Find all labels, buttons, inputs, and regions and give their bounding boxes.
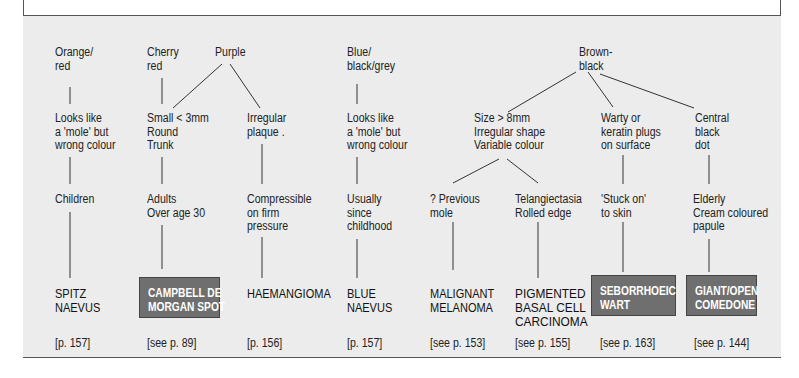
clue-elderly: Elderly Cream coloured papule	[693, 193, 768, 234]
header-blue-black-grey: Blue/ black/grey	[347, 46, 395, 73]
diagnosis-seborrhoeic-wart: SEBORRHOEIC WART	[600, 285, 676, 312]
diagnosis-giant-open-comedone: GIANT/OPEN COMEDONE	[695, 285, 758, 312]
clue-usually: Usually since childhood	[347, 193, 392, 234]
header-purple: Purple	[215, 46, 246, 60]
diagnosis-seborrhoeic-wart-box: SEBORRHOEIC WART	[591, 275, 676, 316]
page-ref-spitz: [p. 157]	[55, 337, 90, 351]
header-cherry-red: Cherry red	[147, 46, 179, 73]
clue-compressible: Compressible on firm pressure	[247, 193, 312, 234]
diagnosis-campbell-de-morgan: CAMPBELL DE MORGAN SPOT	[148, 287, 225, 314]
feature-size: Size > 8mm Irregular shape Variable colo…	[474, 112, 545, 153]
page-ref-comedone: [see p. 144]	[694, 337, 749, 351]
diagnosis-campbell-de-morgan-box: CAMPBELL DE MORGAN SPOT	[139, 277, 220, 318]
header-brown-black: Brown- black	[579, 46, 612, 73]
page-ref-haemangioma: [p. 156]	[247, 337, 282, 351]
clue-stuck-on: 'Stuck on' to skin	[601, 193, 646, 220]
page-ref-bcc: [see p. 155]	[515, 337, 570, 351]
feature-spitz: Looks like a 'mole' but wrong colour	[55, 112, 115, 153]
connector-lines	[0, 0, 799, 378]
feature-central: Central black dot	[695, 112, 729, 153]
header-orange-red: Orange/ red	[55, 46, 93, 73]
clue-children: Children	[55, 193, 94, 207]
diagnosis-blue-naevus: BLUE NAEVUS	[347, 287, 392, 315]
feature-campbell: Small < 3mm Round Trunk	[147, 112, 209, 153]
feature-blue: Looks like a 'mole' but wrong colour	[347, 112, 407, 153]
diagnosis-pigmented-bcc: PIGMENTED BASAL CELL CARCINOMA	[515, 287, 588, 329]
diagnosis-malignant-melanoma: MALIGNANT MELANOMA	[430, 287, 494, 315]
clue-telangiectasia: Telangiectasia Rolled edge	[515, 193, 582, 220]
page-ref-campbell: [see p. 89]	[147, 337, 196, 351]
clue-previous-mole: ? Previous mole	[430, 193, 480, 220]
page-ref-seborrhoeic-wart: [see p. 163]	[600, 337, 655, 351]
page-ref-melanoma: [see p. 153]	[430, 337, 485, 351]
diagnosis-haemangioma: HAEMANGIOMA	[247, 287, 331, 301]
feature-haemangioma: Irregular plaque .	[247, 112, 286, 139]
feature-warty: Warty or keratin plugs on surface	[601, 112, 661, 153]
diagnosis-giant-open-comedone-box: GIANT/OPEN COMEDONE	[686, 275, 757, 316]
page-ref-blue-naevus: [p. 157]	[347, 337, 382, 351]
clue-adults: Adults Over age 30	[147, 193, 205, 220]
diagnosis-spitz-naevus: SPITZ NAEVUS	[55, 287, 100, 315]
